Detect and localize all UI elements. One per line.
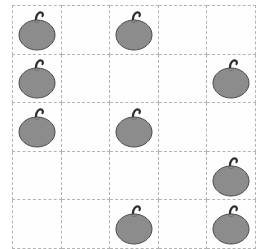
- grid-table: [12, 5, 256, 249]
- empty-cell-spacer: [62, 6, 110, 54]
- grid-cell-r3-c1[interactable]: [13, 103, 62, 152]
- empty-cell-spacer: [207, 6, 255, 54]
- empty-cell-spacer: [159, 55, 207, 103]
- empty-cell-spacer: [110, 152, 158, 200]
- empty-cell-content: [207, 103, 255, 151]
- grid-row: [13, 151, 256, 200]
- empty-cell-spacer: [62, 103, 110, 151]
- empty-cell-content: [62, 152, 110, 200]
- apple-item: [110, 103, 158, 151]
- grid-cell-r1-c2[interactable]: [61, 6, 110, 55]
- grid-cell-r5-c1[interactable]: [13, 200, 62, 249]
- grid-cell-r1-c5[interactable]: [207, 6, 256, 55]
- grid-cell-r4-c4[interactable]: [158, 151, 207, 200]
- grid-cell-r5-c5[interactable]: [207, 200, 256, 249]
- grid-cell-r1-c1[interactable]: [13, 6, 62, 55]
- empty-cell-spacer: [159, 103, 207, 151]
- apple-icon: [210, 201, 252, 245]
- empty-cell-spacer: [62, 152, 110, 200]
- apple-icon: [113, 7, 155, 51]
- grid-cell-r2-c2[interactable]: [61, 54, 110, 103]
- grid-cell-r1-c3[interactable]: [110, 6, 159, 55]
- apple-icon: [210, 153, 252, 197]
- grid-cell-r2-c3[interactable]: [110, 54, 159, 103]
- grid-row: [13, 6, 256, 55]
- empty-cell-content: [62, 55, 110, 103]
- grid-cell-r4-c5[interactable]: [207, 151, 256, 200]
- apple-item: [13, 103, 61, 151]
- grid-cell-r5-c2[interactable]: [61, 200, 110, 249]
- empty-cell-content: [13, 200, 61, 248]
- empty-cell-content: [207, 6, 255, 54]
- apple-icon: [210, 55, 252, 99]
- grid-cell-r4-c2[interactable]: [61, 151, 110, 200]
- empty-cell-spacer: [62, 55, 110, 103]
- apple-icon: [113, 201, 155, 245]
- grid-cell-r3-c5[interactable]: [207, 103, 256, 152]
- empty-cell-content: [62, 103, 110, 151]
- empty-cell-spacer: [110, 55, 158, 103]
- empty-cell-content: [159, 103, 207, 151]
- empty-cell-content: [159, 6, 207, 54]
- empty-cell-content: [13, 152, 61, 200]
- grid-row: [13, 200, 256, 249]
- empty-cell-content: [62, 6, 110, 54]
- grid-cell-r2-c1[interactable]: [13, 54, 62, 103]
- grid-row: [13, 54, 256, 103]
- apple-item: [207, 152, 255, 200]
- grid-container: [12, 5, 250, 243]
- empty-cell-spacer: [13, 152, 61, 200]
- grid-cell-r2-c4[interactable]: [158, 54, 207, 103]
- apple-icon: [16, 7, 58, 51]
- empty-cell-content: [110, 55, 158, 103]
- grid-cell-r3-c3[interactable]: [110, 103, 159, 152]
- empty-cell-content: [159, 55, 207, 103]
- apple-icon: [113, 104, 155, 148]
- empty-cell-spacer: [13, 200, 61, 248]
- empty-cell-content: [159, 200, 207, 248]
- grid-cell-r1-c4[interactable]: [158, 6, 207, 55]
- grid-cell-r5-c3[interactable]: [110, 200, 159, 249]
- apple-item: [207, 55, 255, 103]
- grid-row: [13, 103, 256, 152]
- grid-cell-r3-c2[interactable]: [61, 103, 110, 152]
- apple-item: [13, 6, 61, 54]
- apple-item: [13, 55, 61, 103]
- apple-icon: [16, 104, 58, 148]
- empty-cell-content: [110, 152, 158, 200]
- empty-cell-content: [159, 152, 207, 200]
- empty-cell-spacer: [159, 200, 207, 248]
- empty-cell-content: [62, 200, 110, 248]
- apple-item: [110, 200, 158, 248]
- grid-cell-r3-c4[interactable]: [158, 103, 207, 152]
- empty-cell-spacer: [62, 200, 110, 248]
- empty-cell-spacer: [159, 152, 207, 200]
- grid-cell-r4-c1[interactable]: [13, 151, 62, 200]
- grid-cell-r4-c3[interactable]: [110, 151, 159, 200]
- grid-body: [13, 6, 256, 249]
- apple-icon: [16, 55, 58, 99]
- apple-item: [110, 6, 158, 54]
- grid-cell-r2-c5[interactable]: [207, 54, 256, 103]
- grid-cell-r5-c4[interactable]: [158, 200, 207, 249]
- apple-item: [207, 200, 255, 248]
- empty-cell-spacer: [159, 6, 207, 54]
- empty-cell-spacer: [207, 103, 255, 151]
